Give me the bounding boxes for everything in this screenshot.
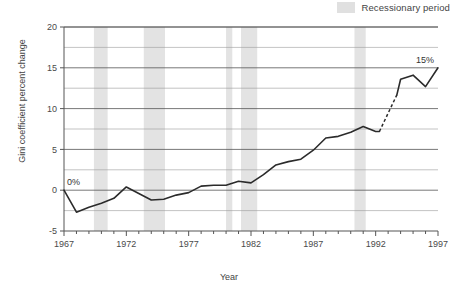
- chart-legend: Recessionary period: [337, 2, 451, 13]
- x-axis-title: Year: [0, 272, 458, 282]
- x-tick-label: 1967: [54, 239, 74, 249]
- y-tick-label: -5: [49, 226, 57, 236]
- x-tick-label: 1977: [179, 239, 199, 249]
- data-annotation: 15%: [416, 55, 434, 65]
- y-tick-label: 10: [47, 104, 57, 114]
- y-tick-label: 15: [47, 63, 57, 73]
- y-tick-label: 20: [47, 22, 57, 32]
- chart-plot-area: -5051015201967197219771982198719921997 0…: [0, 0, 458, 284]
- legend-swatch-recessionary-period: [337, 2, 355, 13]
- y-tick-label: 5: [52, 145, 57, 155]
- data-line-solid-late: [397, 68, 438, 95]
- chart-figure: Recessionary period Gini coefficient per…: [0, 0, 458, 284]
- legend-label-recessionary-period: Recessionary period: [362, 2, 451, 13]
- data-line-dashed-break: [379, 95, 396, 132]
- data-line-solid-early: [64, 127, 379, 213]
- x-tick-label: 1972: [116, 239, 136, 249]
- y-axis-title: Gini coefficient percent change: [17, 16, 27, 186]
- y-tick-label: 0: [52, 185, 57, 195]
- x-tick-label: 1987: [303, 239, 323, 249]
- x-tick-label: 1992: [366, 239, 386, 249]
- data-annotation: 0%: [67, 177, 80, 187]
- x-tick-label: 1982: [241, 239, 261, 249]
- x-tick-label: 1997: [428, 239, 448, 249]
